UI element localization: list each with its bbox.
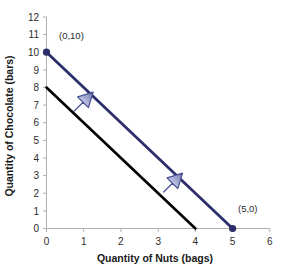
vertical-intercept-label: (0,10) <box>59 30 84 41</box>
x-tick-label-2: 2 <box>118 236 124 247</box>
x-tick-label-5: 5 <box>230 236 236 247</box>
y-tick-label-8: 8 <box>33 82 39 93</box>
chart-container: 12 11 10 9 8 7 6 5 4 3 2 1 0 0 1 2 3 4 <box>0 0 292 280</box>
y-tick-label-9: 9 <box>33 65 39 76</box>
x-tick-label-6: 6 <box>267 236 273 247</box>
x-tick-label-4: 4 <box>193 236 199 247</box>
y-tick-label-12: 12 <box>28 12 40 23</box>
x-tick-label-0: 0 <box>44 236 50 247</box>
y-tick-label-10: 10 <box>28 47 40 58</box>
y-axis-title: Quantity of Chocolate (bars) <box>3 55 15 196</box>
y-tick-label-7: 7 <box>33 100 39 111</box>
y-tick-label-3: 3 <box>33 170 39 181</box>
data-point-5-0 <box>229 225 236 232</box>
y-tick-label-0: 0 <box>33 223 39 234</box>
x-tick-label-1: 1 <box>81 236 87 247</box>
y-tick-label-2: 2 <box>33 188 39 199</box>
y-tick-label-11: 11 <box>29 29 40 40</box>
y-tick-label-1: 1 <box>33 206 39 217</box>
y-tick-label-4: 4 <box>33 153 39 164</box>
x-axis-title: Quantity of Nuts (bags) <box>97 252 213 264</box>
horizontal-intercept-label: (5,0) <box>238 203 258 214</box>
y-tick-label-6: 6 <box>33 117 39 128</box>
y-tick-label-5: 5 <box>33 135 39 146</box>
data-point-0-10 <box>43 49 50 56</box>
x-tick-label-3: 3 <box>155 236 161 247</box>
ppf-chart: 12 11 10 9 8 7 6 5 4 3 2 1 0 0 1 2 3 4 <box>0 0 292 280</box>
